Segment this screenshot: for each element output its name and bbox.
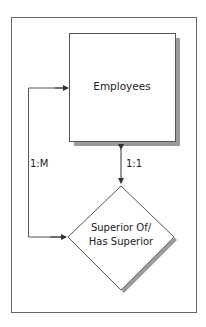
entity-label: Employees: [69, 80, 175, 92]
relationship-label-line2: Has Superior: [71, 236, 171, 247]
cardinality-center-label: 1:1: [126, 158, 142, 169]
cardinality-left-label: 1:M: [30, 158, 48, 169]
relationship-label-line1: Superior Of/: [71, 222, 171, 233]
